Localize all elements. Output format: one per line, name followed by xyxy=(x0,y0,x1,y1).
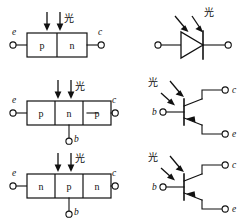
layer-label-n-left: n xyxy=(39,181,44,192)
symbol-diagram-pnp: b c e 光 xyxy=(140,74,249,149)
symbol-emitter-lead xyxy=(202,200,222,209)
light-arrows-group xyxy=(55,153,75,172)
symbol-emitter-arrow xyxy=(186,191,196,197)
layer-label-n-middle: n xyxy=(67,108,72,119)
symbol-terminal-label-emitter: e xyxy=(232,204,236,214)
symbol-terminal-label-emitter: e xyxy=(232,129,236,139)
terminal-label-collector-right: c xyxy=(112,168,117,178)
terminal-dot-left xyxy=(10,110,16,116)
symbol-terminal-dot-base xyxy=(160,109,166,115)
terminal-label-emitter-left: e xyxy=(12,95,16,105)
terminal-label-emitter-left: e xyxy=(12,168,16,178)
light-label: 光 xyxy=(204,6,214,18)
light-label: 光 xyxy=(148,76,158,88)
terminal-label-collector-right: c xyxy=(112,95,117,105)
layer-label-p-middle: p xyxy=(67,181,72,192)
terminal-dot-right xyxy=(112,110,118,116)
figure-row-photodiode: 光 e p n c xyxy=(0,0,249,74)
light-arrows-group xyxy=(161,81,184,106)
layer-label-n: n xyxy=(70,40,75,51)
layer-label-p-left: p xyxy=(39,108,44,119)
symbol-terminal-dot-emitter xyxy=(222,206,228,212)
terminal-dot-right xyxy=(98,42,104,48)
light-label: 光 xyxy=(148,151,158,163)
light-arrows-group xyxy=(175,16,203,33)
light-arrows-group xyxy=(55,80,75,99)
symbol-terminal-dot-anode xyxy=(155,42,161,48)
structure-diagram-npn: 光 e n p n c b xyxy=(0,149,140,223)
figure-canvas: 光 e p n c xyxy=(0,0,249,223)
terminal-dot-base xyxy=(66,138,72,144)
symbol-collector-slant xyxy=(184,174,202,181)
terminal-label-emitter-left: e xyxy=(12,27,16,37)
light-arrows-group xyxy=(161,156,184,181)
terminal-dot-left xyxy=(10,42,16,48)
symbol-collector-lead xyxy=(202,90,222,99)
structure-diagram-pn: 光 e p n c xyxy=(0,0,140,74)
symbol-diagram-photodiode: 光 xyxy=(140,0,249,74)
figure-row-npn-phototransistor: 光 e n p n c b b c xyxy=(0,149,249,223)
symbol-terminal-dot-cathode xyxy=(225,42,231,48)
terminal-label-collector-right: c xyxy=(98,27,103,37)
terminal-dot-left xyxy=(10,183,16,189)
symbol-terminal-dot-collector xyxy=(222,162,228,168)
symbol-terminal-dot-emitter xyxy=(222,131,228,137)
structure-diagram-pnp: 光 e p n p c b xyxy=(0,74,140,149)
light-label: 光 xyxy=(75,152,85,164)
symbol-diagram-npn: b c e 光 xyxy=(140,149,249,223)
symbol-emitter-lead xyxy=(202,125,222,134)
symbol-terminal-label-base: b xyxy=(152,182,157,192)
diode-triangle-icon xyxy=(181,32,203,58)
figure-row-pnp-phototransistor: 光 e p n p c b b xyxy=(0,74,249,148)
terminal-label-base: b xyxy=(74,207,79,217)
symbol-collector-slant xyxy=(184,99,202,106)
symbol-terminal-label-collector: c xyxy=(232,160,237,170)
symbol-terminal-dot-collector xyxy=(222,87,228,93)
symbol-terminal-label-collector: c xyxy=(232,85,237,95)
layer-label-p: p xyxy=(40,40,45,51)
terminal-label-base: b xyxy=(74,134,79,144)
symbol-terminal-label-base: b xyxy=(152,107,157,117)
light-arrows-group xyxy=(44,12,64,31)
layer-label-n-right: n xyxy=(95,181,100,192)
symbol-collector-lead xyxy=(202,165,222,174)
symbol-emitter-arrow xyxy=(186,116,196,122)
terminal-dot-right xyxy=(112,183,118,189)
terminal-dot-base xyxy=(66,211,72,217)
light-label: 光 xyxy=(64,12,74,24)
light-label: 光 xyxy=(75,80,85,92)
symbol-terminal-dot-base xyxy=(160,184,166,190)
